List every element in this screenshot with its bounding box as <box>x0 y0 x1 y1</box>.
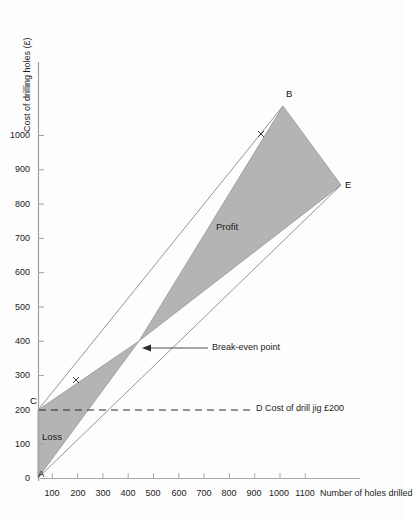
x-axis-title: Number of holes drilled <box>320 489 413 498</box>
series-line-ae <box>38 185 341 478</box>
y-tick-label-100: 100 <box>2 440 30 449</box>
y-axis-title: Cost of drilling holes (£) <box>22 37 32 132</box>
profit-region-label: Profit <box>216 222 238 232</box>
break-even-annotation: Break-even point <box>212 343 280 352</box>
x-tick-label-1100: 1100 <box>290 489 320 498</box>
x-axis-ticks <box>52 473 305 478</box>
profit-region <box>139 106 341 341</box>
point-label-c: C <box>30 396 37 406</box>
y-tick-label-200: 200 <box>2 406 30 415</box>
y-tick-label-1000: 1000 <box>2 131 30 140</box>
y-tick-label-600: 600 <box>2 268 30 277</box>
y-tick-label-400: 400 <box>2 337 30 346</box>
point-label-b: B <box>286 89 292 99</box>
y-tick-label-800: 800 <box>2 200 30 209</box>
y-tick-label-500: 500 <box>2 303 30 312</box>
y-tick-label-300: 300 <box>2 371 30 380</box>
point-label-e: E <box>345 180 351 190</box>
drill-jig-annotation: D Cost of drill jig £200 <box>256 404 344 413</box>
y-tick-label-900: 900 <box>2 165 30 174</box>
point-label-a: A <box>38 469 44 479</box>
loss-region-label: Loss <box>42 432 62 442</box>
y-tick-label-0: 0 <box>2 474 30 483</box>
y-tick-label-700: 700 <box>2 234 30 243</box>
